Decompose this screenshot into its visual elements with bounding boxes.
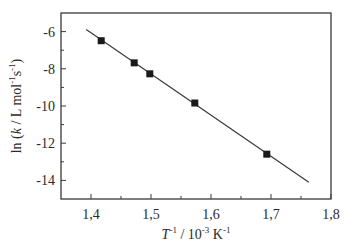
data-point-square (191, 100, 198, 107)
y-label-sup2: -1 (7, 63, 17, 71)
y-axis-label: ln (k / L mol-1s-1) (7, 58, 25, 153)
y-label-pre: ln ( (9, 134, 25, 153)
data-point-square (146, 70, 153, 77)
y-tick-label: -6 (43, 25, 55, 40)
y-tick-label: -12 (36, 136, 55, 151)
x-tick-label: 1,4 (82, 207, 100, 222)
data-point-square (131, 59, 138, 66)
x-tick-label: 1,8 (322, 207, 340, 222)
y-tick-label: -8 (43, 62, 55, 77)
data-point-square (263, 151, 270, 158)
y-tick-label: -10 (36, 99, 55, 114)
x-tick-label: 1,5 (142, 207, 160, 222)
arrhenius-plot: 1,41,51,61,71,8 -6-8-10-12-14 T-1 / 10-3… (0, 0, 356, 245)
x-axis-ticks: 1,41,51,61,71,8 (82, 194, 340, 222)
data-point-square (98, 37, 105, 44)
x-tick-label: 1,7 (262, 207, 280, 222)
y-label-sup1: -1 (7, 76, 17, 84)
x-tick-label: 1,6 (202, 207, 220, 222)
x-label-var-sup: -1 (169, 225, 177, 235)
x-label-unit-sup: -1 (223, 225, 231, 235)
y-label-mid: / L mol (9, 84, 24, 128)
x-axis-label: T-1 / 10-3 K-1 (162, 225, 231, 242)
y-label-post: ) (9, 58, 25, 63)
x-label-unit: K (209, 227, 223, 242)
x-label-mid: / 10 (177, 227, 202, 242)
y-tick-label: -14 (36, 173, 55, 188)
